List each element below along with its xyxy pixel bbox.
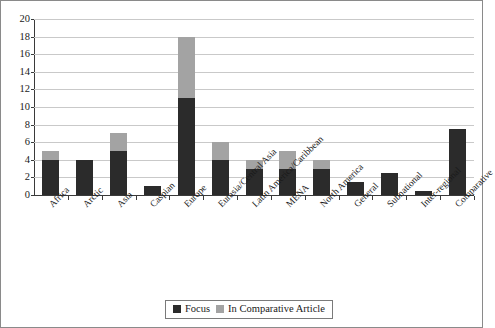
bar-group[interactable]: [76, 19, 93, 195]
y-axis-tick-label: 10: [8, 102, 30, 112]
bar-stack: [110, 133, 127, 195]
x-axis-tick-mark: [102, 196, 103, 200]
x-axis-tick-mark: [440, 196, 441, 200]
y-axis-tick-label: 8: [8, 120, 30, 130]
bar-stack: [212, 142, 229, 195]
chart-legend: FocusIn Comparative Article: [165, 300, 333, 319]
x-axis-tick-mark: [305, 196, 306, 200]
x-axis-tick-mark: [339, 196, 340, 200]
bar-segment-focus[interactable]: [76, 160, 93, 195]
bar-segment-in-comparative-article[interactable]: [212, 142, 229, 160]
legend-entry[interactable]: In Comparative Article: [216, 303, 325, 315]
x-axis-tick-mark: [474, 196, 475, 200]
legend-entry[interactable]: Focus: [173, 303, 210, 315]
x-axis-tick-mark: [406, 196, 407, 200]
bar-segment-in-comparative-article[interactable]: [313, 160, 330, 169]
bar-stack: [449, 129, 466, 195]
bar-segment-focus[interactable]: [449, 129, 466, 195]
x-axis-tick-mark: [271, 196, 272, 200]
bar-segment-focus[interactable]: [42, 160, 59, 195]
y-axis-tick-label: 12: [8, 84, 30, 94]
y-axis-tick-label: 4: [8, 155, 30, 165]
x-axis-tick-mark: [169, 196, 170, 200]
bar-stack: [76, 160, 93, 195]
y-axis-tick-label: 16: [8, 49, 30, 59]
legend-swatch-icon: [216, 305, 224, 313]
x-axis-tick-mark: [136, 196, 137, 200]
bar-group[interactable]: [415, 19, 432, 195]
bar-segment-focus[interactable]: [212, 160, 229, 195]
y-axis-tick-label: 14: [8, 67, 30, 77]
bar-stack: [313, 160, 330, 195]
bar-stack: [42, 151, 59, 195]
bar-group[interactable]: [42, 19, 59, 195]
bar-segment-focus[interactable]: [110, 151, 127, 195]
legend-swatch-icon: [173, 305, 181, 313]
bar-group[interactable]: [144, 19, 161, 195]
y-axis-tick-label: 20: [8, 14, 30, 24]
bar-segment-in-comparative-article[interactable]: [110, 133, 127, 151]
bar-segment-focus[interactable]: [178, 98, 195, 195]
bar-group[interactable]: [381, 19, 398, 195]
bar-segment-in-comparative-article[interactable]: [42, 151, 59, 160]
legend-label: In Comparative Article: [228, 303, 325, 315]
bar-segment-in-comparative-article[interactable]: [178, 37, 195, 99]
bar-group[interactable]: [178, 19, 195, 195]
y-axis-tick-label: 0: [8, 190, 30, 200]
bar-group[interactable]: [110, 19, 127, 195]
legend-label: Focus: [185, 303, 210, 315]
y-axis-tick-labels: 02468101214161820: [4, 19, 30, 195]
bar-group[interactable]: [212, 19, 229, 195]
bar-group[interactable]: [313, 19, 330, 195]
x-axis-tick-mark: [68, 196, 69, 200]
y-axis-tick-label: 2: [8, 172, 30, 182]
y-axis-tick-label: 18: [8, 32, 30, 42]
bar-stack: [178, 37, 195, 195]
x-axis-tick-mark: [372, 196, 373, 200]
y-axis-tick-label: 6: [8, 137, 30, 147]
x-axis-tick-mark: [203, 196, 204, 200]
x-axis-tick-mark: [237, 196, 238, 200]
